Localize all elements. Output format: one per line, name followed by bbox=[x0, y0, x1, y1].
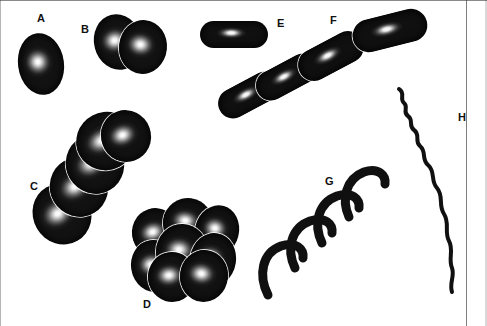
specimen-label-d: D bbox=[143, 299, 151, 310]
plate-border-right bbox=[466, 0, 467, 326]
bacterial-morphology-figure: ABCDEFGH bbox=[0, 0, 487, 326]
cell-spirochete-1 bbox=[399, 89, 453, 292]
specimen-label-c: C bbox=[30, 181, 38, 192]
cell-single-coccus-1 bbox=[14, 30, 68, 98]
specimen-label-f: F bbox=[330, 15, 337, 26]
cell-single-bacillus-1 bbox=[200, 21, 268, 48]
figure-plate: ABCDEFGH bbox=[0, 0, 487, 326]
specimen-label-b: B bbox=[81, 24, 89, 35]
plate-border-top bbox=[0, 0, 487, 1]
specimen-label-g: G bbox=[325, 176, 334, 187]
specimen-spirilla bbox=[263, 170, 385, 295]
plate-border-left bbox=[0, 0, 1, 326]
specimen-label-e: E bbox=[277, 18, 285, 29]
cell-spirilla-3 bbox=[318, 194, 359, 243]
cell-spirilla-1 bbox=[263, 244, 303, 295]
specimen-spirochete bbox=[399, 89, 453, 292]
cell-spirilla-2 bbox=[291, 219, 332, 268]
specimen-label-a: A bbox=[37, 13, 45, 24]
cell-streptobacilli-chain-4 bbox=[349, 5, 431, 55]
specimen-label-h: H bbox=[458, 112, 466, 123]
cell-spirilla-4 bbox=[345, 170, 385, 217]
